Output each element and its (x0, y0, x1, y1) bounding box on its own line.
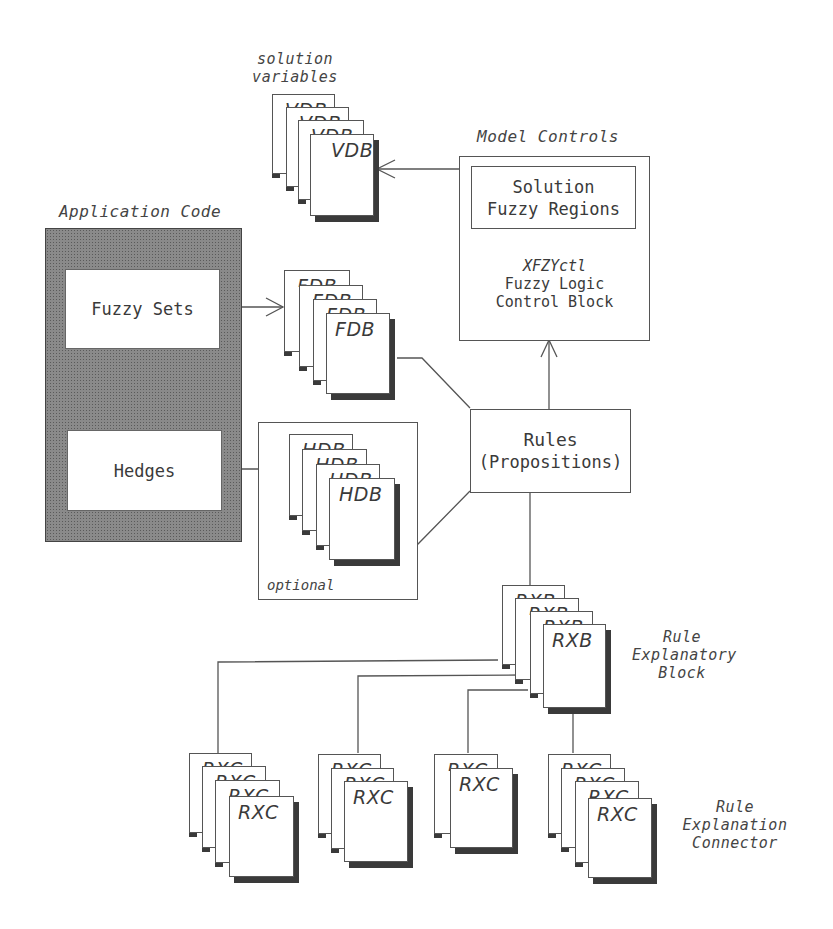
label-line: Rule (680, 798, 790, 816)
vdb-card-front[interactable]: VDB (310, 134, 374, 216)
rxc-card-front[interactable]: RXC (588, 798, 652, 878)
card-nub (502, 665, 510, 669)
rxb-card-label: RXB (552, 629, 593, 651)
xfzyctl-name: XFZYctl (523, 257, 586, 275)
xfzyctl-block-text: XFZYctl Fuzzy Logic Control Block (460, 257, 649, 311)
label-line: Rule (632, 628, 732, 646)
card-nub (331, 849, 339, 853)
label-line: Explanation (680, 816, 790, 834)
label-line: Block (632, 664, 732, 682)
label-line: Connector (680, 834, 790, 852)
card-nub (530, 694, 538, 698)
rules-subtitle: (Propositions) (479, 451, 622, 473)
card-nub (313, 381, 321, 385)
card-nub (202, 848, 210, 852)
card-nub (284, 352, 292, 356)
card-nub (302, 531, 310, 535)
label-line: solution (245, 50, 345, 68)
rxc-card-label: RXC (597, 803, 638, 825)
rxc-card-label: RXC (588, 786, 629, 798)
card-nub (318, 834, 326, 838)
rule-explanatory-block-label: Rule Explanatory Block (632, 628, 732, 682)
card-nub (215, 863, 223, 867)
hedges-box[interactable]: Hedges (67, 430, 222, 511)
rxb-card-front[interactable]: RXB (543, 624, 606, 708)
application-code-panel[interactable]: Fuzzy Sets Hedges (45, 228, 242, 542)
card-nub (434, 834, 442, 838)
card-nub (286, 187, 294, 191)
card-nub (515, 680, 523, 684)
rxc-card-label: RXC (459, 773, 500, 795)
solution-variables-label: solution variables (245, 50, 345, 86)
rxc-card-front[interactable]: RXC (450, 768, 513, 848)
hdb-card-label: HDB (339, 483, 382, 505)
card-nub (299, 367, 307, 371)
fdb-card-label: FDB (335, 318, 375, 340)
rxc-card-label: RXC (238, 801, 279, 823)
vdb-card-label: VDB (331, 139, 373, 161)
fuzzy-sets-box[interactable]: Fuzzy Sets (65, 269, 220, 349)
optional-label: optional (267, 577, 334, 593)
label-line: variables (245, 68, 345, 86)
rules-title: Rules (523, 429, 577, 451)
card-nub (561, 848, 569, 852)
card-nub (189, 833, 197, 837)
inner-box-line: Solution (513, 176, 595, 198)
card-nub (575, 863, 583, 867)
card-nub (316, 546, 324, 550)
card-nub (289, 516, 297, 520)
card-nub (272, 174, 280, 178)
block-desc-line: Control Block (496, 293, 613, 311)
label-line: Explanatory (632, 646, 732, 664)
rxc-card-label: RXC (353, 786, 394, 808)
fdb-card-front[interactable]: FDB (326, 313, 390, 394)
card-nub (548, 834, 556, 838)
rxc-card-front[interactable]: RXC (344, 781, 408, 862)
rules-box[interactable]: Rules (Propositions) (470, 409, 631, 493)
card-nub (298, 200, 306, 204)
hedges-label: Hedges (114, 460, 175, 482)
model-controls-box[interactable]: Solution Fuzzy Regions XFZYctl Fuzzy Log… (459, 156, 650, 341)
application-code-label: Application Code (40, 203, 240, 221)
block-desc-line: Fuzzy Logic (505, 275, 604, 293)
solution-fuzzy-regions-box[interactable]: Solution Fuzzy Regions (471, 166, 636, 229)
model-controls-label: Model Controls (458, 128, 638, 146)
fuzzy-sets-label: Fuzzy Sets (91, 298, 193, 320)
hdb-card-front[interactable]: HDB (329, 478, 395, 560)
rule-explanation-connector-label: Rule Explanation Connector (680, 798, 790, 852)
rxc-card-front[interactable]: RXC (229, 796, 294, 877)
inner-box-line: Fuzzy Regions (487, 198, 620, 220)
